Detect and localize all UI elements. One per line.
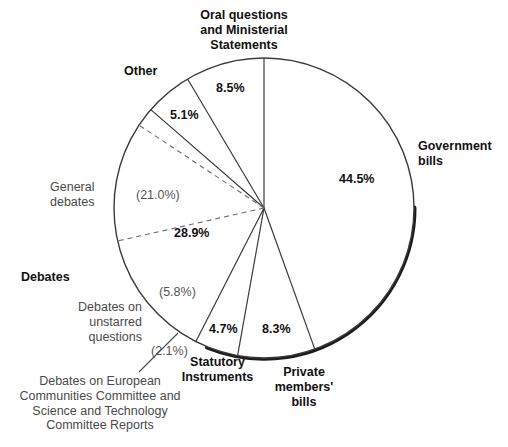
label-debates: Debates xyxy=(21,270,101,285)
label-statutory-instruments: Statutory Instruments xyxy=(165,355,270,385)
value-debates-unstarred-questions: (5.8%) xyxy=(159,285,196,300)
label-debates-ec-reports: Debates on European Communities Committe… xyxy=(10,374,190,433)
value-debates-ec-reports: (2.1%) xyxy=(151,344,188,359)
value-oral-questions: 8.5% xyxy=(216,81,245,96)
value-statutory-instruments: 4.7% xyxy=(209,322,238,337)
value-other: 5.1% xyxy=(170,108,199,123)
value-private-members-bills: 8.3% xyxy=(262,322,291,337)
label-general-debates: General debates xyxy=(50,180,130,210)
pie-chart-figure: Oral questions and Ministerial Statement… xyxy=(0,0,508,447)
value-general-debates: (21.0%) xyxy=(136,188,180,203)
label-oral-questions: Oral questions and Ministerial Statement… xyxy=(156,8,332,52)
label-private-members-bills: Private members' bills xyxy=(258,365,350,409)
value-government-bills: 44.5% xyxy=(339,172,374,187)
label-other: Other xyxy=(124,64,194,79)
value-debates: 28.9% xyxy=(174,226,209,241)
label-debates-unstarred-questions: Debates on unstarred questions xyxy=(52,300,142,344)
label-government-bills: Government bills xyxy=(418,139,508,169)
